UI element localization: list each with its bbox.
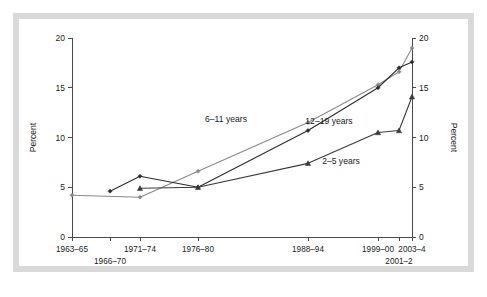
y-tick-label-right: 5 [419, 182, 424, 192]
x-tick-label: 1988–94 [292, 245, 324, 254]
x-tick-label-offset: 2001–2 [385, 257, 413, 266]
axes-group: 00551010151520201963–651971–741976–80198… [28, 33, 459, 266]
x-tick-label: 1999–00 [362, 245, 394, 254]
series-marker-1-1 [138, 174, 142, 178]
series-line-2 [140, 97, 412, 189]
y-tick-label-left: 5 [60, 182, 65, 192]
series-annotation-0: 6–11 years [205, 114, 247, 124]
series-annotation-2: 2–5 years [322, 156, 360, 166]
x-tick-label: 2003–4 [398, 245, 426, 254]
series-line-1 [110, 62, 412, 191]
series-marker-0-0 [70, 193, 74, 197]
x-tick-label: 1963–65 [56, 245, 88, 254]
series-marker-1-0 [108, 189, 112, 193]
y-tick-label-right: 20 [419, 33, 429, 43]
x-tick-label-offset: 1966–70 [94, 257, 126, 266]
series-marker-2-5 [409, 94, 414, 99]
series-annotation-1: 12–19 years [305, 116, 352, 126]
y-tick-label-right: 15 [419, 83, 429, 93]
y-tick-label-left: 15 [56, 83, 66, 93]
series-marker-0-6 [410, 46, 414, 50]
x-tick-label: 1976–80 [182, 245, 214, 254]
x-tick-label: 1971–74 [124, 245, 156, 254]
y-tick-label-left: 0 [60, 232, 65, 242]
series-marker-0-1 [138, 195, 142, 199]
series-marker-0-2 [196, 169, 200, 173]
y-tick-label-right: 0 [419, 232, 424, 242]
y-tick-label-left: 20 [56, 33, 66, 43]
y-axis-title-left: Percent [28, 122, 38, 152]
series-marker-2-2 [305, 161, 310, 166]
figure-root: 00551010151520201963–651971–741976–80198… [0, 0, 487, 297]
y-tick-label-right: 10 [419, 133, 429, 143]
y-axis-title-right: Percent [449, 123, 459, 153]
y-tick-label-left: 10 [56, 133, 66, 143]
chart-canvas: 00551010151520201963–651971–741976–80198… [0, 0, 487, 297]
series-marker-1-6 [410, 60, 414, 64]
